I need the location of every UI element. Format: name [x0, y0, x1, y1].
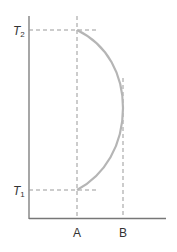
phase-curve [77, 30, 123, 190]
diagram: T2 T1 A B [0, 0, 177, 252]
label-b: B [119, 226, 127, 240]
label-t2: T2 [13, 24, 25, 39]
label-t1: T1 [13, 184, 25, 199]
label-a: A [73, 226, 81, 240]
